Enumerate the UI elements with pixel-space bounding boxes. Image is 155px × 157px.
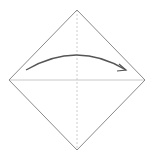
origami-diagram [0, 0, 155, 157]
background [0, 0, 155, 157]
